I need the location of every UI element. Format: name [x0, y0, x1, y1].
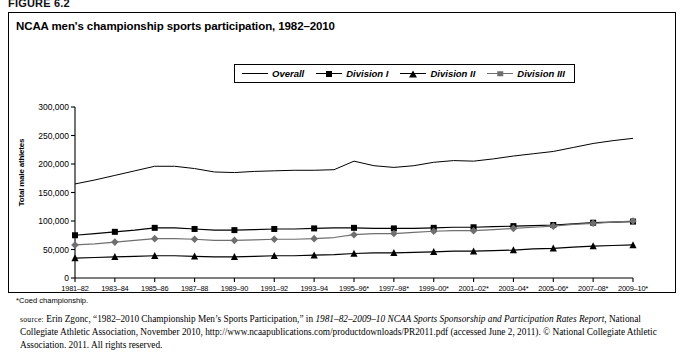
source-note: source: Erin Zgonc, “1982–2010 Champions…	[20, 313, 670, 353]
series-division-iii	[71, 217, 637, 249]
series-overall	[75, 138, 633, 184]
chart-plot-area: Total male athletes 050,000100,000150,00…	[0, 0, 688, 300]
source-title-italic: 1981–82–2009–10 NCAA Sports Sponsorship …	[315, 314, 604, 324]
line-chart-svg	[0, 0, 688, 300]
source-text-1: Erin Zgonc, “1982–2010 Championship Men’…	[44, 314, 315, 324]
series-division-ii	[71, 241, 636, 261]
source-prefix: source:	[20, 315, 44, 324]
footnote-coed: *Coed championship.	[16, 296, 88, 305]
